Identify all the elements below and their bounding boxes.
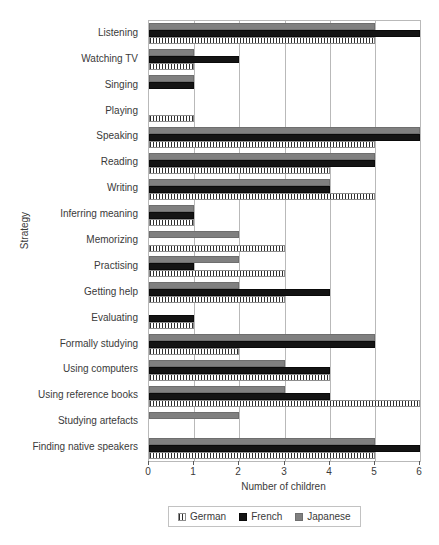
x-axis-tick (284, 461, 285, 465)
x-axis-tick (148, 461, 149, 465)
x-axis-tick (238, 461, 239, 465)
category-label: Formally studying (26, 338, 138, 349)
legend-label: French (251, 511, 282, 522)
bar-german (149, 63, 194, 70)
bar-french (149, 445, 420, 452)
category-label: Writing (26, 182, 138, 193)
bar-german (149, 322, 194, 329)
legend: GermanFrenchJapanese (168, 506, 361, 527)
x-axis-tick-label: 5 (362, 466, 386, 477)
bar-japanese (149, 23, 375, 30)
bar-french (149, 263, 194, 270)
bar-french (149, 393, 330, 400)
bar-german (149, 270, 285, 277)
bar-french (149, 212, 194, 219)
category-label: Using computers (26, 363, 138, 374)
x-axis-tick-label: 6 (407, 466, 431, 477)
bar-japanese (149, 360, 285, 367)
bar-german (149, 193, 375, 200)
bar-french (149, 186, 330, 193)
legend-swatch-french (239, 513, 247, 521)
legend-item-japanese[interactable]: Japanese (295, 511, 350, 522)
category-label: Finding native speakers (26, 441, 138, 452)
category-label: Memorizing (26, 234, 138, 245)
bar-french (149, 289, 330, 296)
x-axis-tick-label: 1 (181, 466, 205, 477)
bar-french (149, 30, 420, 37)
bar-japanese (149, 334, 375, 341)
bar-french (149, 160, 375, 167)
x-axis-tick-labels: 0123456 (148, 466, 419, 480)
bar-japanese (149, 179, 330, 186)
bar-german (149, 219, 194, 226)
category-label: Practising (26, 260, 138, 271)
category-label: Studying artefacts (26, 415, 138, 426)
bar-french (149, 56, 239, 63)
bar-german (149, 400, 420, 407)
category-label: Watching TV (26, 53, 138, 64)
category-label: Inferring meaning (26, 208, 138, 219)
legend-item-french[interactable]: French (239, 511, 282, 522)
legend-swatch-japanese (295, 513, 303, 521)
bar-japanese (149, 412, 239, 419)
bar-japanese (149, 205, 194, 212)
bar-french (149, 315, 194, 322)
legend-item-german[interactable]: German (178, 511, 226, 522)
x-axis-title: Number of children (148, 481, 419, 492)
category-label: Getting help (26, 286, 138, 297)
x-axis-tick (419, 461, 420, 465)
x-axis-tick-label: 0 (136, 466, 160, 477)
bar-french (149, 82, 194, 89)
bar-french (149, 341, 375, 348)
bar-japanese (149, 231, 239, 238)
bar-german (149, 348, 239, 355)
category-label: Evaluating (26, 312, 138, 323)
bar-japanese (149, 153, 375, 160)
x-axis-tick-label: 2 (226, 466, 250, 477)
bar-japanese (149, 75, 194, 82)
bar-german (149, 37, 375, 44)
bar-german (149, 115, 194, 122)
bars-layer (149, 21, 420, 461)
bar-japanese (149, 438, 375, 445)
category-label: Using reference books (26, 389, 138, 400)
x-axis-tick (374, 461, 375, 465)
category-label: Reading (26, 156, 138, 167)
legend-swatch-german (178, 513, 186, 521)
bar-japanese (149, 386, 285, 393)
bar-german (149, 452, 375, 459)
x-axis-tick (329, 461, 330, 465)
bar-chart: Strategy ListeningWatching TVSingingPlay… (0, 0, 439, 545)
bar-french (149, 367, 330, 374)
bar-german (149, 167, 330, 174)
category-label: Singing (26, 79, 138, 90)
bar-german (149, 245, 285, 252)
bar-french (149, 134, 420, 141)
x-axis-tick-label: 3 (272, 466, 296, 477)
bar-japanese (149, 282, 239, 289)
category-label: Playing (26, 105, 138, 116)
bar-german (149, 374, 330, 381)
bar-japanese (149, 127, 420, 134)
category-label: Listening (26, 27, 138, 38)
plot-area (148, 20, 421, 462)
category-label: Speaking (26, 130, 138, 141)
category-axis-labels: ListeningWatching TVSingingPlayingSpeaki… (30, 20, 144, 460)
x-axis-tick-label: 4 (317, 466, 341, 477)
x-axis-tick (193, 461, 194, 465)
bar-japanese (149, 256, 239, 263)
bar-german (149, 296, 285, 303)
legend-label: Japanese (307, 511, 350, 522)
legend-label: German (190, 511, 226, 522)
bar-german (149, 141, 375, 148)
bar-japanese (149, 49, 194, 56)
